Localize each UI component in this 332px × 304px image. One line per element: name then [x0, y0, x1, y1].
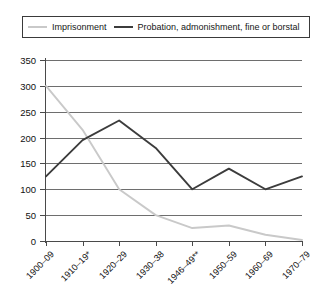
chart-figure: Imprisonment Probation, admonishment, fi…	[0, 0, 332, 304]
series-line	[46, 121, 302, 190]
series-line	[46, 86, 302, 240]
data-series-layer	[0, 0, 332, 304]
